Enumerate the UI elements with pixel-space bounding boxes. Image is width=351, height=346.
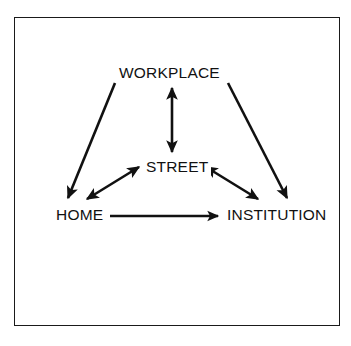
edge-workplace-home [68,83,115,198]
node-label-home: HOME [53,206,106,224]
node-label-street: STREET [143,158,211,176]
figure-root: WORKPLACE STREET HOME INSTITUTION [0,0,351,346]
node-label-workplace: WORKPLACE [116,64,223,82]
edge-workplace-institution [228,83,287,198]
edge-street-institution [206,167,258,199]
node-label-institution: INSTITUTION [224,206,330,224]
edge-street-home [87,167,139,199]
